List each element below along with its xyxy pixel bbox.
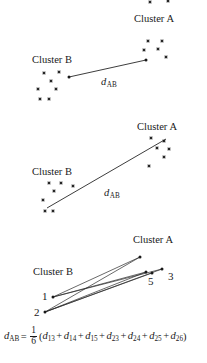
formula-term-15: d15	[85, 330, 97, 341]
formula-denominator: 6	[30, 336, 37, 347]
cluster-a-point	[162, 139, 166, 143]
cluster-a-point	[164, 55, 168, 59]
panel-single-linkage: Cluster ACluster BdAB	[32, 0, 174, 101]
formula-equals: =	[19, 331, 28, 342]
formula-term-25: d25	[149, 330, 161, 341]
point-label-5: 5	[148, 275, 154, 287]
formula-close-paren: )	[183, 331, 187, 342]
cluster-a-point	[155, 146, 159, 150]
formula-terms: d13+d14+d15+d23+d24+d25+d26	[42, 330, 183, 343]
formula-lhs: dAB	[4, 330, 19, 343]
link-endpoint	[145, 59, 148, 62]
cluster-b-label: Cluster B	[33, 266, 73, 277]
data-point-cropped	[148, 0, 152, 4]
cluster-b-point	[52, 189, 56, 193]
cluster-a-point	[160, 39, 164, 43]
formula-lhs-subscript: AB	[9, 335, 19, 343]
cluster-a-point	[147, 164, 151, 168]
cluster-a-label: Cluster A	[137, 121, 177, 132]
cluster-b-point-1	[52, 296, 55, 299]
cluster-linkage-figure: Cluster ACluster BdAB Cluster ACluster B…	[0, 0, 207, 363]
cluster-a-point	[156, 47, 160, 51]
formula-term-subscript: 13	[48, 335, 55, 343]
point-label-3: 3	[168, 270, 174, 282]
point-label-1: 1	[42, 290, 48, 302]
cluster-a-point-3	[161, 268, 164, 271]
cluster-b-point	[54, 87, 58, 91]
cluster-a-point-5	[145, 271, 148, 274]
formula-numerator: 1	[30, 326, 37, 336]
cluster-b-label: Cluster B	[32, 166, 72, 177]
panel-complete-linkage: Cluster ACluster BdAB	[32, 121, 177, 213]
cluster-a-point	[167, 147, 171, 151]
formula-term-subscript: 23	[112, 335, 119, 343]
cluster-b-point	[57, 70, 61, 74]
cluster-b-point	[43, 209, 47, 213]
panel-average-linkage: Cluster ACluster B1235	[33, 234, 174, 318]
formula-term-26: d26	[171, 330, 183, 341]
cluster-b-point	[51, 209, 55, 213]
cluster-a-label: Cluster A	[133, 234, 173, 245]
formula-term-13: d13	[42, 330, 54, 341]
formula-term-subscript: 15	[90, 335, 97, 343]
formula-operator: +	[140, 330, 149, 341]
cluster-b-point	[47, 181, 51, 185]
link-endpoint	[68, 76, 71, 79]
formula-term-subscript: 26	[176, 335, 183, 343]
cluster-a-point	[146, 39, 150, 43]
cluster-a-point	[149, 136, 153, 140]
formula-term-14: d14	[64, 330, 76, 341]
linkage-line-2-6	[45, 273, 152, 312]
formula-operator: +	[162, 330, 171, 341]
cluster-a-point-4	[139, 256, 142, 259]
distance-label: dAB	[104, 187, 120, 200]
formula-term-subscript: 25	[154, 335, 161, 343]
formula-operator: +	[76, 330, 85, 341]
linkage-line-2-5	[45, 272, 146, 312]
figure-canvas: Cluster ACluster BdAB Cluster ACluster B…	[0, 0, 207, 363]
linkage-line-0	[69, 60, 146, 77]
point-label-2: 2	[34, 306, 40, 318]
cluster-b-point-2	[44, 311, 47, 314]
cluster-b-point	[47, 97, 51, 101]
formula-operator: +	[119, 330, 128, 341]
formula-term-24: d24	[128, 330, 140, 341]
data-point-cropped	[166, 0, 170, 3]
formula-fraction: 1 6	[30, 326, 37, 347]
cluster-b-point	[59, 181, 63, 185]
cluster-b-point	[71, 184, 75, 188]
cluster-a-label: Cluster A	[134, 13, 174, 24]
cluster-b-label: Cluster B	[32, 54, 72, 65]
distance-label-subscript: AB	[107, 81, 117, 89]
cluster-b-point	[41, 198, 45, 202]
cluster-a-point	[162, 155, 166, 159]
average-linkage-formula: dAB = 1 6 ( d13+d14+d15+d23+d24+d25+d26 …	[4, 326, 204, 347]
cluster-b-point	[49, 79, 53, 83]
formula-operator: +	[98, 330, 107, 341]
cluster-b-point	[36, 87, 40, 91]
cluster-b-point	[42, 71, 46, 75]
formula-operator: +	[55, 330, 64, 341]
distance-label-subscript: AB	[110, 192, 120, 200]
distance-label: dAB	[101, 76, 117, 89]
cluster-b-point	[38, 97, 42, 101]
cluster-a-point	[142, 48, 146, 52]
formula-term-23: d23	[107, 330, 119, 341]
